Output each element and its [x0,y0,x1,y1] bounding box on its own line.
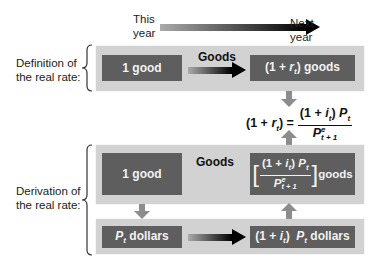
dollars-arrow-icon [188,234,248,241]
derivation-goods-label: Goods [196,155,234,169]
definition-right-box: (1 + rt) goods [250,55,355,81]
dollars-right-box: (1 + it) Pt dollars [250,226,355,248]
definition-side-label: Definition of the real rate: [16,56,81,84]
definition-label-line1: Definition of [16,56,81,70]
equation-fraction: (1 + it) Pt Pet + 1 [298,107,352,142]
this-year-line1: This [133,12,155,26]
next-year-line2: year [290,30,314,44]
definition-brace-icon [80,44,94,92]
up-arrow-to-goods-icon [281,203,297,219]
definition-label-line2: the real rate: [16,70,81,84]
derivation-numerator: (1 + it) Pt [260,157,311,175]
derivation-side-label: Derivation of the real rate: [16,184,81,212]
definition-arrow-label: Goods [198,50,236,64]
definition-left-box: 1 good [102,55,182,81]
this-year-label: This year [133,12,155,40]
derivation-right-box: [ (1 + it) Pt Pet + 1 ] goods [250,153,355,195]
right-bracket-icon: ] [312,162,319,186]
one-good-text-2: 1 good [122,167,161,181]
down-arrow-to-equation-icon [281,91,297,107]
dollars-left-box: Pt dollars [102,226,182,248]
derivation-label-line1: Derivation of [16,184,81,198]
real-rate-equation: (1 + rt) = (1 + it) Pt Pet + 1 [246,107,352,142]
one-plus-i-p-t-dollars-text: (1 + it) Pt dollars [255,229,349,245]
one-plus-r-goods-text: (1 + rt) goods [265,60,340,76]
derivation-left-box: 1 good [102,153,182,195]
next-year-label: Next year [290,16,314,44]
next-year-line1: Next [290,16,314,30]
equation-denominator: Pet + 1 [313,126,338,142]
one-good-text: 1 good [122,61,161,75]
up-arrow-to-equation-icon [281,130,297,146]
derivation-brace-icon [80,144,94,256]
this-year-line2: year [133,26,155,40]
goods-suffix-text: goods [318,168,353,180]
derivation-label-line2: the real rate: [16,198,81,212]
left-bracket-icon: [ [252,162,259,186]
down-arrow-to-dollars-icon [134,204,150,220]
derivation-denominator: Pet + 1 [274,176,297,191]
p-t-dollars-text: Pt dollars [115,229,168,245]
derivation-fraction: (1 + it) Pt Pet + 1 [260,157,311,190]
definition-goods-arrow-icon [188,67,248,74]
equation-numerator: (1 + it) Pt [298,107,352,126]
